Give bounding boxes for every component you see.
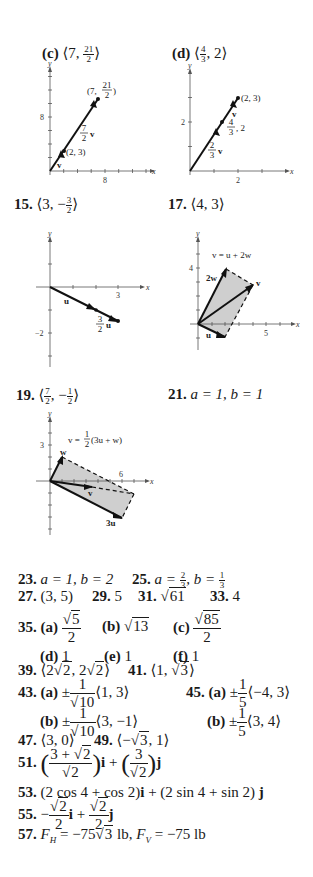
answer-23: 23. a = 1, b = 2 bbox=[18, 571, 113, 588]
svg-text:(3u + w): (3u + w) bbox=[91, 435, 122, 445]
svg-text:2: 2 bbox=[85, 439, 90, 449]
svg-text:1: 1 bbox=[85, 429, 90, 439]
svg-text:v =: v = bbox=[68, 435, 80, 445]
svg-text:3u: 3u bbox=[106, 518, 116, 528]
answer-31: 31. √61 bbox=[138, 588, 186, 605]
answer-57: 57. FH = −75√3 lb, FV = −75 lb bbox=[18, 826, 206, 845]
svg-text:6: 6 bbox=[119, 470, 123, 479]
answer-33: 33. 4 bbox=[210, 588, 240, 605]
answer-41: 41. ⟨1, √3⟩ bbox=[128, 661, 195, 679]
svg-text:w: w bbox=[60, 447, 67, 457]
answer-29: 29. 5 bbox=[92, 588, 122, 605]
svg-text:x: x bbox=[149, 477, 154, 486]
answer-35: 35. (a) √52 bbox=[18, 612, 81, 645]
svg-text:y: y bbox=[47, 409, 52, 418]
answer-35b: (b) √13 bbox=[102, 618, 149, 635]
answer-35c: (c) √852 bbox=[173, 612, 221, 645]
answer-45b: (b) ±15⟨3, 4⟩ bbox=[207, 706, 281, 739]
answer-51: 51. (3 + √2√2)i + (3√2)j bbox=[18, 747, 161, 780]
answer-27: 27. (3, 5) bbox=[18, 588, 73, 605]
svg-text:3: 3 bbox=[40, 441, 44, 450]
graph-19: 6 3 x y v = 1 2 (3u + w) w v 3u bbox=[0, 0, 313, 560]
svg-text:v: v bbox=[88, 488, 93, 498]
